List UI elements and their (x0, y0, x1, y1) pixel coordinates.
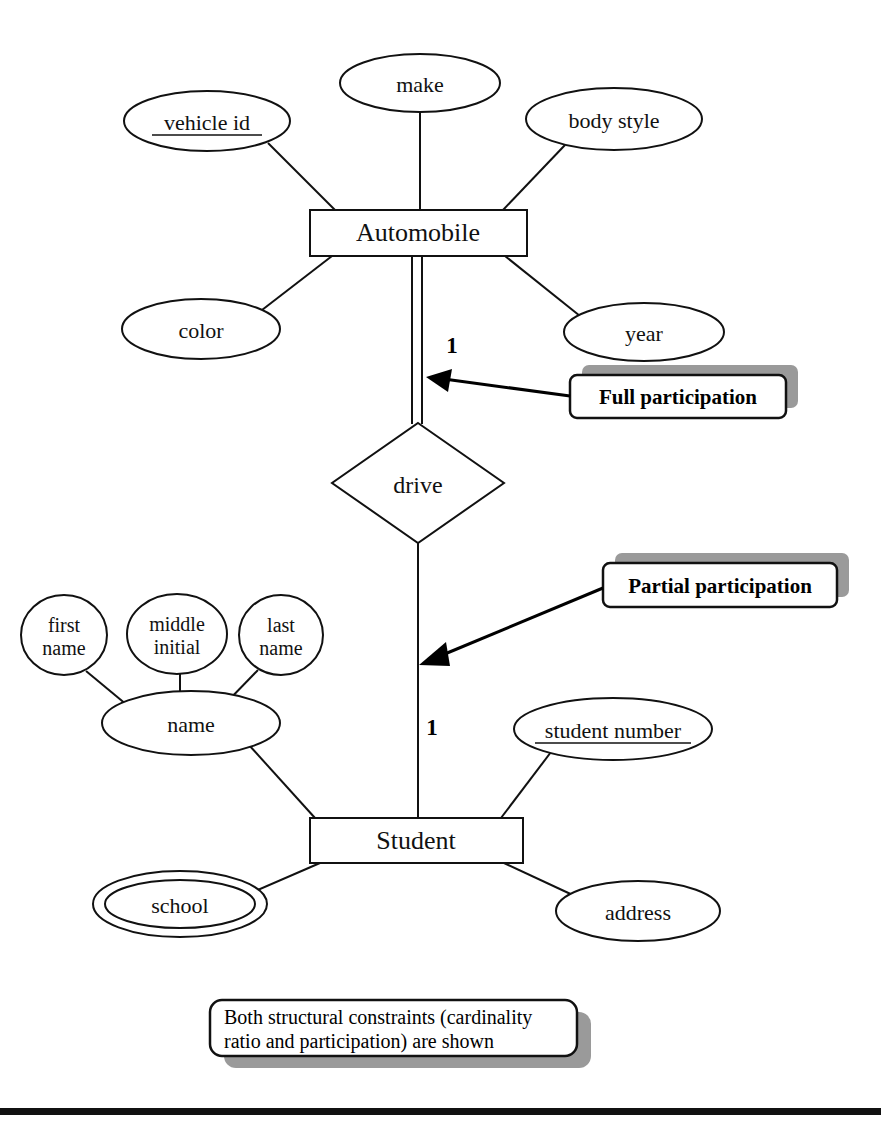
attribute-student-number-label: student number (545, 718, 682, 743)
attribute-school-label: school (151, 893, 208, 918)
attribute-body-style[interactable]: body style (526, 88, 702, 150)
attribute-make[interactable]: make (340, 54, 500, 112)
attribute-middle-initial[interactable]: middle initial (127, 594, 227, 674)
attribute-vehicle-id-label: vehicle id (164, 110, 250, 135)
callout-full-participation-label: Full participation (599, 385, 757, 409)
cardinality-label-automobile-side: 1 (446, 333, 458, 358)
callout-partial-participation-arrow-head (419, 642, 450, 666)
attribute-year-label: year (625, 321, 664, 346)
attribute-student-number[interactable]: student number (514, 698, 712, 760)
connector-school-student (253, 863, 320, 892)
page-bottom-rule (0, 1108, 881, 1115)
connector-student-number-student (501, 752, 551, 818)
attribute-school[interactable]: school (93, 871, 267, 937)
er-diagram-canvas: Automobile Student drive vehicle id make… (0, 0, 881, 1131)
attribute-color-label: color (178, 318, 224, 343)
relationship-drive[interactable]: drive (332, 423, 504, 543)
attribute-first-name-label-line1: first (48, 614, 81, 636)
attribute-address[interactable]: address (556, 881, 720, 941)
attribute-make-label: make (396, 72, 444, 97)
attribute-year[interactable]: year (564, 303, 724, 361)
connector-name-student (249, 745, 315, 818)
callout-partial-participation[interactable]: Partial participation (419, 553, 849, 666)
connector-address-student (504, 863, 577, 897)
attribute-body-style-label: body style (568, 108, 659, 133)
entity-automobile-label: Automobile (356, 218, 480, 247)
entity-automobile[interactable]: Automobile (310, 210, 527, 256)
attribute-last-name-label-line1: last (267, 614, 295, 636)
attribute-middle-initial-label-line1: middle (149, 613, 205, 635)
callout-full-participation-arrow-line (444, 379, 570, 396)
attribute-address-label: address (605, 900, 671, 925)
er-diagram-page: Automobile Student drive vehicle id make… (0, 0, 881, 1131)
structural-constraints-note-line1: Both structural constraints (cardinality (224, 1006, 532, 1029)
attribute-first-name[interactable]: first name (21, 595, 107, 675)
attribute-name[interactable]: name (102, 691, 280, 755)
attribute-first-name-label-line2: name (42, 637, 85, 659)
cardinality-label-student-side: 1 (426, 715, 438, 740)
structural-constraints-note[interactable]: Both structural constraints (cardinality… (210, 1000, 591, 1068)
attribute-name-label: name (167, 712, 215, 737)
callout-partial-participation-label: Partial participation (628, 574, 812, 598)
attribute-color[interactable]: color (122, 299, 280, 359)
callout-full-participation-arrow-head (426, 369, 452, 392)
relationship-drive-label: drive (393, 472, 442, 498)
connector-body-style-automobile (503, 145, 565, 210)
callout-full-participation[interactable]: Full participation (426, 365, 798, 418)
connector-color-automobile (262, 256, 332, 310)
attribute-vehicle-id[interactable]: vehicle id (124, 91, 290, 151)
connector-year-automobile (505, 256, 580, 316)
structural-constraints-note-line2: ratio and participation) are shown (224, 1030, 494, 1053)
entity-student-label: Student (376, 826, 456, 855)
attribute-last-name-label-line2: name (259, 637, 302, 659)
attribute-last-name[interactable]: last name (239, 595, 323, 675)
entity-student[interactable]: Student (310, 818, 523, 863)
connector-vehicle-id-automobile (268, 143, 335, 210)
callout-partial-participation-arrow-line (440, 588, 603, 656)
attribute-middle-initial-label-line2: initial (154, 636, 201, 658)
